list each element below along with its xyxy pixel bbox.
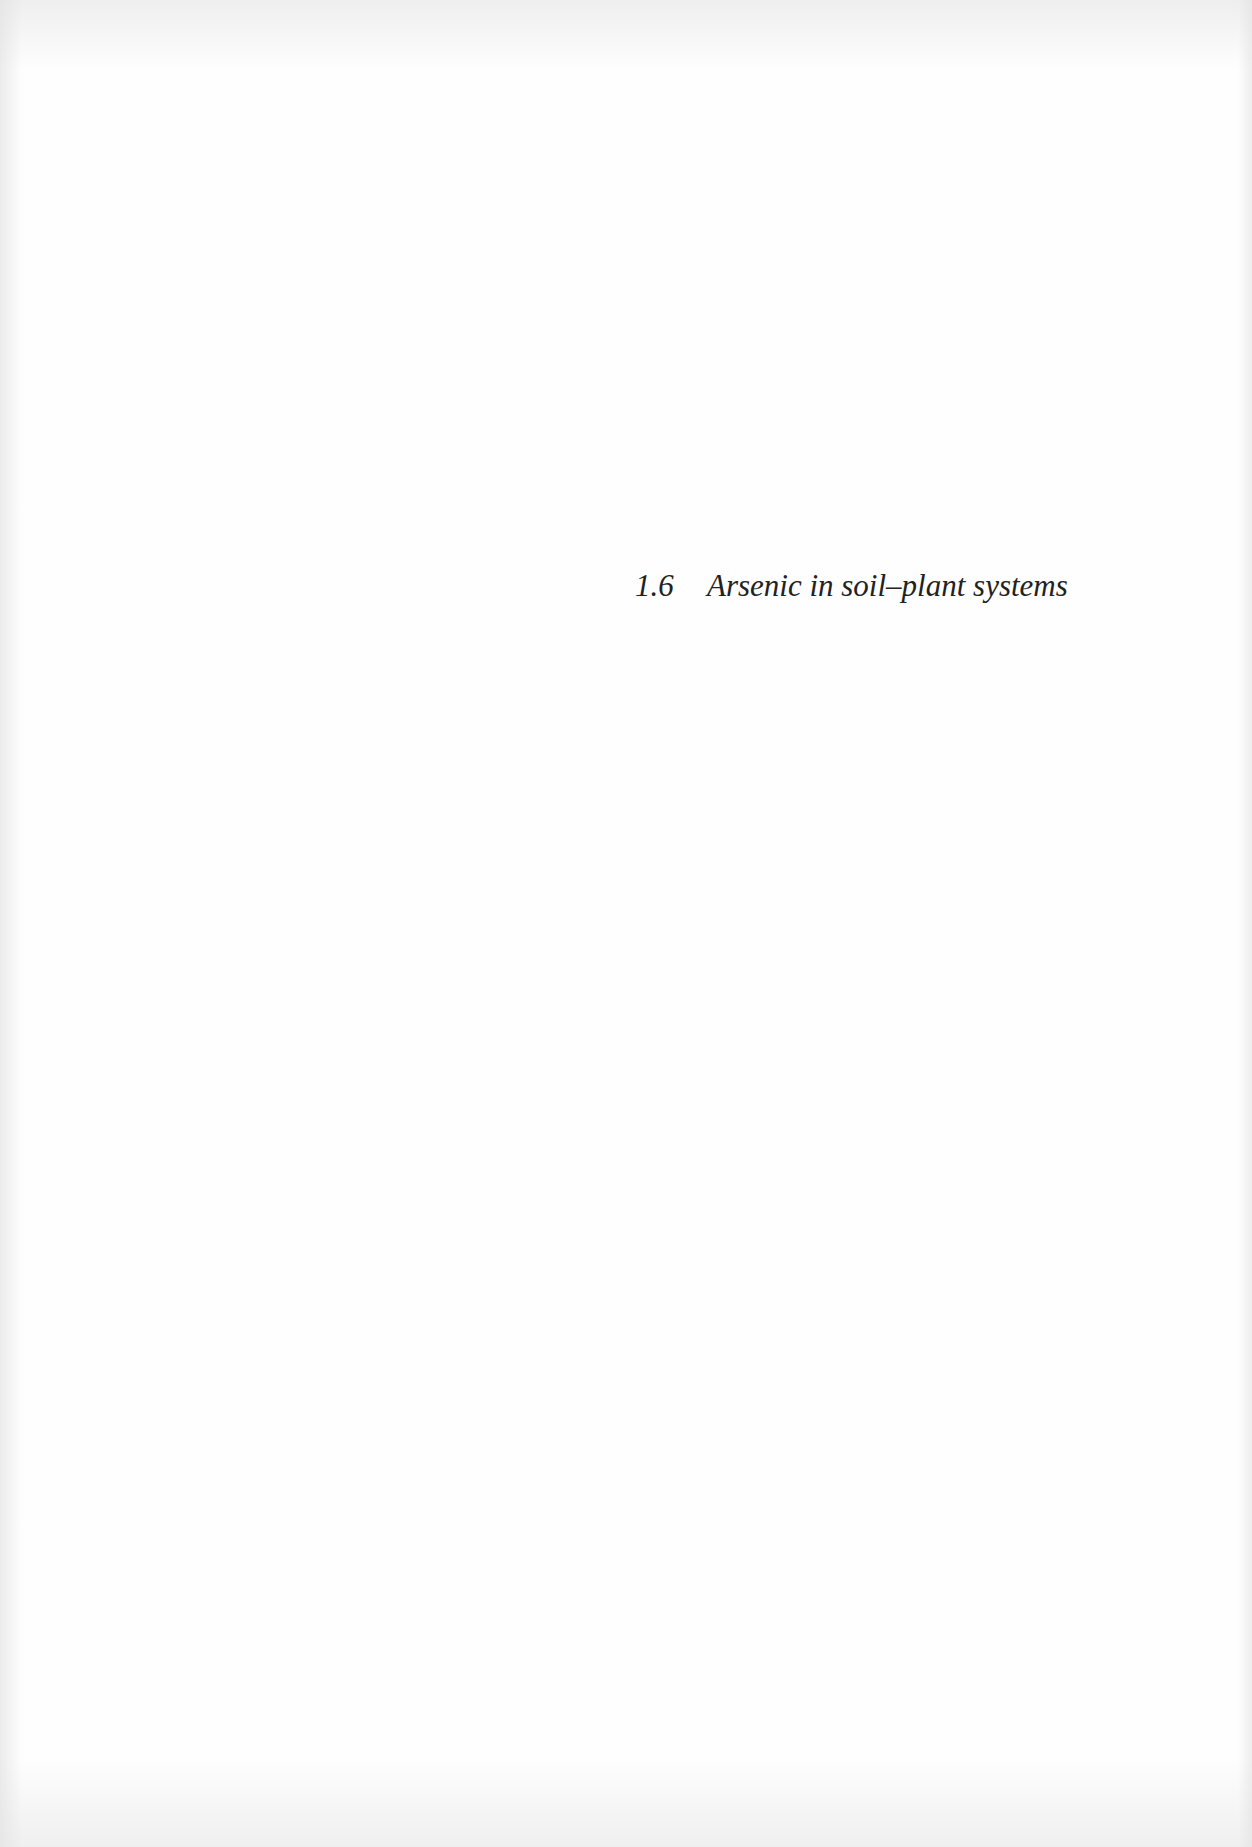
section-title: Arsenic in soil–plant systems <box>707 568 1068 603</box>
section-number: 1.6 <box>635 566 707 606</box>
section-heading: 1.6Arsenic in soil–plant systems <box>635 566 1068 606</box>
book-page: 1.6Arsenic in soil–plant systems <box>0 0 1252 1847</box>
